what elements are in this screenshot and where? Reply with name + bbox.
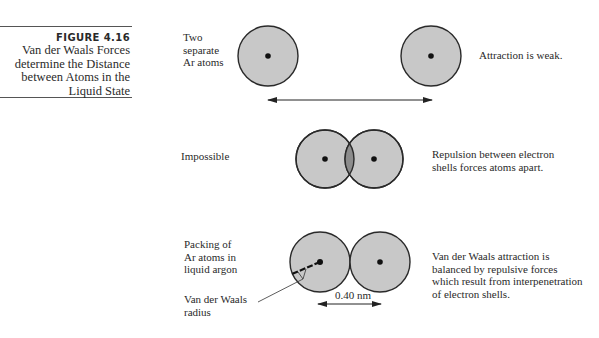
repulsion-label: Repulsion between electron shells forces… xyxy=(432,148,554,173)
packing-atoms-panel xyxy=(258,232,410,304)
label-line: Two xyxy=(183,31,224,44)
distance-label: 0.40 nm xyxy=(335,289,371,302)
nucleus-dot xyxy=(377,259,383,265)
packing-label: Packing of Ar atoms in liquid argon xyxy=(184,238,237,276)
nucleus-dot xyxy=(371,156,377,162)
label-line: Packing of xyxy=(184,238,237,251)
separate-atoms-label: Two separate Ar atoms xyxy=(183,31,224,69)
impossible-label: Impossible xyxy=(181,150,229,163)
label-line: which result from interpenetration xyxy=(432,275,583,288)
nucleus-dot xyxy=(265,53,271,59)
attraction-weak-label: Attraction is weak. xyxy=(479,49,562,62)
balance-explanation-label: Van der Waals attraction is balanced by … xyxy=(432,250,583,300)
label-line: shells forces atoms apart. xyxy=(432,161,554,174)
radius-leader-line xyxy=(258,279,303,302)
nucleus-dot xyxy=(428,53,434,59)
label-line: separate xyxy=(183,44,224,57)
label-line: Van der Waals xyxy=(184,293,247,306)
nucleus-dot xyxy=(322,156,328,162)
label-line: of electron shells. xyxy=(432,288,583,301)
separate-atoms-panel xyxy=(238,26,461,100)
label-line: liquid argon xyxy=(184,263,237,276)
overlap-atoms-panel xyxy=(296,130,403,188)
vdw-radius-label: Van der Waals radius xyxy=(184,293,247,318)
label-line: Ar atoms xyxy=(183,56,224,69)
label-line: Van der Waals attraction is xyxy=(432,250,583,263)
label-line: Ar atoms in xyxy=(184,251,237,264)
label-line: Repulsion between electron xyxy=(432,148,554,161)
label-line: balanced by repulsive forces xyxy=(432,263,583,276)
label-line: radius xyxy=(184,306,247,319)
